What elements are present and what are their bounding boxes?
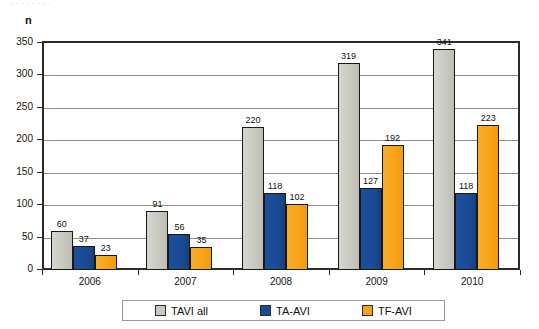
x-tick-mark-1 bbox=[138, 270, 139, 275]
bar-value-tavi-all-2007: 91 bbox=[140, 199, 174, 209]
bar-value-tf-avi-2006: 23 bbox=[89, 243, 123, 253]
bar-value-tf-avi-2007: 35 bbox=[184, 235, 218, 245]
bar-tavi-all-2007[interactable] bbox=[146, 211, 168, 270]
y-tick-label-250: 250 bbox=[3, 101, 33, 112]
bar-group-2010: 341118223 bbox=[433, 41, 499, 270]
caption-remnant: · · · · · · · · bbox=[10, 0, 530, 7]
legend-item-1[interactable]: TA-AVI bbox=[260, 305, 310, 317]
y-tick-label-300: 300 bbox=[3, 68, 33, 79]
bar-value-tf-avi-2008: 102 bbox=[280, 192, 314, 202]
y-axis-unit-label: n bbox=[25, 14, 32, 26]
bar-ta-avi-2010[interactable] bbox=[455, 193, 477, 270]
y-tick-label-0: 0 bbox=[3, 263, 33, 274]
x-axis-label-2007: 2007 bbox=[155, 276, 215, 287]
x-axis-label-2009: 2009 bbox=[347, 276, 407, 287]
y-tick-label-50: 50 bbox=[3, 231, 33, 242]
x-axis-label-2008: 2008 bbox=[251, 276, 311, 287]
legend-swatch-orange bbox=[362, 305, 373, 316]
bar-tf-avi-2008[interactable] bbox=[286, 204, 308, 270]
bar-tavi-all-2010[interactable] bbox=[433, 49, 455, 270]
bar-value-tavi-all-2006: 60 bbox=[45, 219, 79, 229]
bar-tf-avi-2009[interactable] bbox=[382, 145, 404, 270]
legend-item-0[interactable]: TAVI all bbox=[155, 305, 208, 317]
bar-value-ta-avi-2007: 56 bbox=[162, 222, 196, 232]
bar-group-2009: 319127192 bbox=[338, 41, 404, 270]
bar-group-2008: 220118102 bbox=[242, 41, 308, 270]
y-tick-label-350: 350 bbox=[3, 36, 33, 47]
legend-label-0: TAVI all bbox=[171, 305, 208, 317]
bar-ta-avi-2009[interactable] bbox=[360, 188, 382, 270]
bar-group-2006: 603723 bbox=[51, 41, 117, 270]
legend-item-2[interactable]: TF-AVI bbox=[362, 305, 412, 317]
bar-tf-avi-2010[interactable] bbox=[477, 125, 499, 270]
legend-swatch-blue bbox=[260, 305, 271, 316]
bar-tavi-all-2009[interactable] bbox=[338, 63, 360, 270]
legend-label-2: TF-AVI bbox=[378, 305, 412, 317]
bar-value-tavi-all-2009: 319 bbox=[332, 51, 366, 61]
bars-layer: 603723915635220118102319127192341118223 bbox=[42, 41, 520, 270]
bar-tavi-all-2008[interactable] bbox=[242, 127, 264, 270]
y-tick-label-100: 100 bbox=[3, 198, 33, 209]
x-axis-label-2010: 2010 bbox=[442, 276, 502, 287]
bar-value-ta-avi-2008: 118 bbox=[258, 181, 292, 191]
y-tick-label-200: 200 bbox=[3, 133, 33, 144]
x-tick-mark-3 bbox=[329, 270, 330, 275]
bar-value-tf-avi-2010: 223 bbox=[471, 113, 505, 123]
chart-legend: TAVI all TA-AVI TF-AVI bbox=[122, 300, 445, 321]
x-tick-mark-2 bbox=[233, 270, 234, 275]
bar-ta-avi-2008[interactable] bbox=[264, 193, 286, 270]
bar-value-tf-avi-2009: 192 bbox=[376, 133, 410, 143]
bar-tf-avi-2007[interactable] bbox=[190, 247, 212, 270]
bar-chart: · · · · · · · · n 050100150200250300350 … bbox=[0, 0, 539, 329]
legend-label-1: TA-AVI bbox=[276, 305, 310, 317]
bar-value-tavi-all-2010: 341 bbox=[427, 37, 461, 47]
x-tick-mark-end bbox=[520, 270, 521, 275]
x-tick-mark-0 bbox=[42, 270, 43, 275]
x-axis-label-2006: 2006 bbox=[60, 276, 120, 287]
bar-value-tavi-all-2008: 220 bbox=[236, 115, 270, 125]
bar-group-2007: 915635 bbox=[146, 41, 212, 270]
bar-tf-avi-2006[interactable] bbox=[95, 255, 117, 270]
legend-swatch-gray bbox=[155, 305, 166, 316]
x-tick-mark-4 bbox=[424, 270, 425, 275]
y-tick-label-150: 150 bbox=[3, 166, 33, 177]
